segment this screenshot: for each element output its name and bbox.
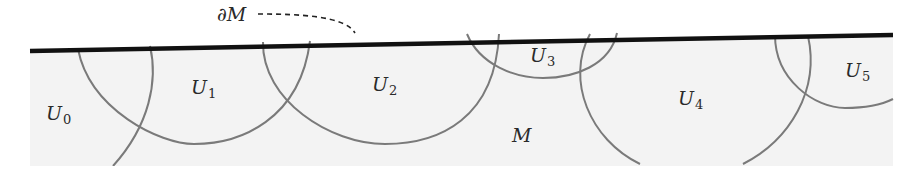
manifold-label: M <box>512 126 531 145</box>
chart-symbol: U <box>372 73 388 95</box>
chart-label-u1: U1 <box>191 78 216 100</box>
diagram-graphics <box>0 0 918 176</box>
chart-label-u4: U4 <box>678 89 703 111</box>
boundary-leader-dashed <box>258 14 355 33</box>
chart-symbol: U <box>46 102 62 124</box>
chart-index: 0 <box>63 112 71 127</box>
chart-symbol: U <box>678 87 694 109</box>
boundary-label-text: ∂M <box>217 3 246 25</box>
chart-index: 1 <box>208 86 216 101</box>
chart-label-u2: U2 <box>372 75 397 97</box>
chart-index: 5 <box>862 69 870 84</box>
manifold-region <box>30 35 893 166</box>
manifold-boundary-diagram: ∂M U0 U1 U2 U3 U4 U5 M <box>0 0 918 176</box>
manifold-label-text: M <box>512 124 531 146</box>
chart-symbol: U <box>845 59 861 81</box>
chart-label-u0: U0 <box>46 104 71 126</box>
chart-symbol: U <box>191 76 207 98</box>
boundary-label: ∂M <box>217 5 246 24</box>
chart-label-u3: U3 <box>530 46 555 68</box>
chart-index: 3 <box>547 54 555 69</box>
chart-symbol: U <box>530 44 546 66</box>
chart-index: 2 <box>389 83 397 98</box>
chart-label-u5: U5 <box>845 61 870 83</box>
chart-index: 4 <box>695 97 703 112</box>
